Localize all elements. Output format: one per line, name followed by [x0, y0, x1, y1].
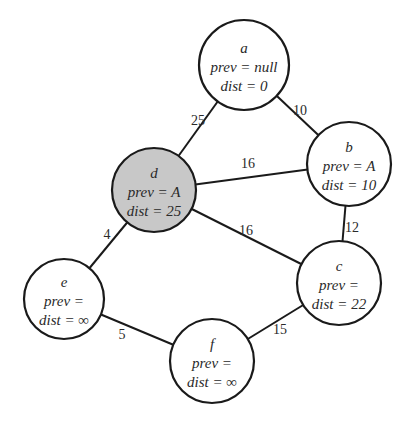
node-dist: dist = 10 [322, 177, 377, 193]
node-b: bprev = Adist = 10 [307, 122, 391, 206]
edge-weight-b-c: 12 [345, 220, 359, 235]
dijkstra-graph-diagram: 25101616124515 aprev = nulldist = 0bprev… [0, 0, 413, 429]
node-e: eprev =dist = ∞ [24, 259, 104, 339]
node-dist: dist = 25 [127, 203, 182, 219]
node-c: cprev =dist = 22 [297, 241, 381, 325]
edge-weight-a-b: 10 [293, 103, 307, 118]
node-prev: prev = null [209, 59, 277, 75]
node-dist: dist = 0 [221, 78, 268, 94]
node-dist: dist = ∞ [39, 312, 89, 328]
node-f: fprev =dist = ∞ [170, 319, 254, 403]
node-a: aprev = nulldist = 0 [199, 20, 289, 110]
edge-weight-f-c: 15 [273, 322, 287, 337]
node-name: a [240, 40, 248, 56]
node-name: c [336, 258, 343, 274]
node-name: d [150, 165, 158, 181]
edge-weight-e-f: 5 [119, 327, 126, 342]
node-dist: dist = 22 [312, 296, 367, 312]
edge-weight-a-d: 25 [191, 113, 205, 128]
node-prev: prev = [191, 355, 232, 371]
node-prev: prev = A [322, 158, 376, 174]
node-name: e [61, 274, 68, 290]
node-prev: prev = [43, 293, 84, 309]
node-d: dprev = Adist = 25 [112, 148, 196, 232]
edge-weight-d-b: 16 [241, 156, 255, 171]
edge-weight-d-e: 4 [104, 227, 111, 242]
node-prev: prev = [318, 277, 359, 293]
nodes-layer: aprev = nulldist = 0bprev = Adist = 10cp… [24, 20, 391, 403]
node-name: b [345, 139, 353, 155]
node-prev: prev = A [127, 184, 181, 200]
edge-weight-d-c: 16 [239, 223, 253, 238]
node-dist: dist = ∞ [187, 374, 237, 390]
